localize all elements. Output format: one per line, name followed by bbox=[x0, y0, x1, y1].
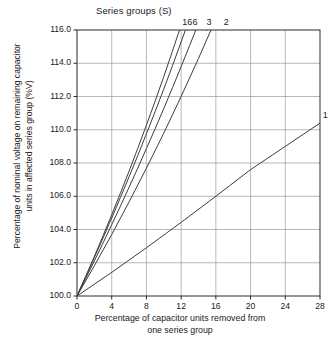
curve-series-3 bbox=[77, 23, 206, 296]
x-tick-label: 0 bbox=[65, 301, 89, 311]
x-tick-label: 4 bbox=[100, 301, 124, 311]
y-tick-label: 106.0 bbox=[37, 190, 71, 200]
x-axis-title-line-2: one series group bbox=[40, 325, 320, 337]
curve-end-label-3: 3 bbox=[200, 17, 218, 27]
x-tick-label: 16 bbox=[204, 301, 228, 311]
x-axis-title: Percentage of capacitor units removed fr… bbox=[40, 313, 320, 336]
curve-series-6 bbox=[77, 18, 193, 296]
curve-series-2 bbox=[77, 0, 225, 296]
y-axis-title-line-2: units in affected series group (%V) bbox=[24, 0, 36, 292]
y-tick-label: 114.0 bbox=[37, 57, 71, 67]
data-curves bbox=[77, 0, 320, 296]
y-tick-label: 104.0 bbox=[37, 224, 71, 234]
y-axis-title-line-1: Percentage of nominal voltage on remaini… bbox=[12, 0, 24, 292]
x-axis-title-line-1: Percentage of capacitor units removed fr… bbox=[40, 313, 320, 325]
capacitor-voltage-chart-figure: Series groups (S) Percentage of nominal … bbox=[0, 0, 335, 355]
curve-end-label-2: 2 bbox=[217, 17, 235, 27]
y-tick-label: 116.0 bbox=[37, 24, 71, 34]
curve-series-16 bbox=[77, 25, 187, 296]
axis-ticks bbox=[74, 30, 321, 300]
y-tick-label: 108.0 bbox=[37, 157, 71, 167]
x-tick-label: 12 bbox=[169, 301, 193, 311]
grid-lines bbox=[77, 30, 320, 296]
y-tick-label: 112.0 bbox=[37, 91, 71, 101]
x-tick-label: 24 bbox=[273, 301, 297, 311]
axes-frame bbox=[77, 30, 320, 296]
chart-title: Series groups (S) bbox=[96, 5, 172, 16]
x-tick-label: 20 bbox=[239, 301, 263, 311]
x-tick-label: 8 bbox=[134, 301, 158, 311]
curve-end-label-1: 1 bbox=[316, 110, 334, 120]
y-axis-title: Percentage of nominal voltage on remaini… bbox=[0, 0, 40, 300]
x-tick-label: 28 bbox=[308, 301, 332, 311]
y-tick-label: 102.0 bbox=[37, 257, 71, 267]
y-tick-label: 100.0 bbox=[37, 290, 71, 300]
curve-series-1 bbox=[77, 123, 320, 296]
y-tick-label: 110.0 bbox=[37, 124, 71, 134]
